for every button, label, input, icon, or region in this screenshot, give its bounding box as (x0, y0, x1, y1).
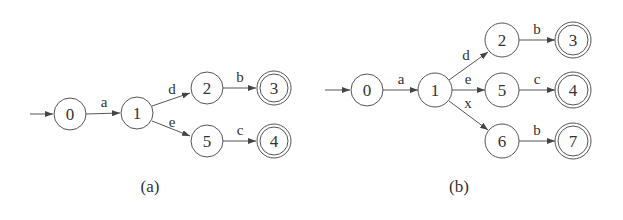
state-0: 0 (351, 74, 383, 106)
svg-text:4: 4 (569, 81, 578, 100)
state-7-accepting: 7 (555, 123, 591, 159)
svg-text:1: 1 (431, 81, 440, 100)
edge-label-c: c (237, 122, 244, 138)
svg-text:6: 6 (498, 132, 507, 151)
edge-label-c: c (534, 71, 541, 87)
edge-label-d: d (462, 47, 470, 63)
edge-label-d: d (168, 81, 176, 97)
edge-label-b: b (533, 122, 541, 138)
svg-text:4: 4 (270, 132, 279, 151)
svg-text:3: 3 (270, 79, 279, 98)
edge-label-a: a (398, 71, 405, 87)
state-3-accepting: 3 (555, 22, 591, 58)
edge-label-e: e (169, 114, 176, 130)
state-6: 6 (485, 124, 519, 158)
automaton-b: a d e x b c b 0 1 2 3 (325, 21, 591, 196)
edge-label-b: b (236, 69, 244, 85)
svg-text:0: 0 (66, 105, 75, 124)
state-5: 5 (485, 73, 519, 107)
state-2: 2 (485, 23, 519, 57)
edge-label-a: a (101, 94, 108, 110)
state-0: 0 (54, 98, 86, 130)
state-2: 2 (191, 72, 223, 104)
svg-text:5: 5 (498, 81, 507, 100)
figure-canvas: a d e b c 0 1 2 3 5 (0, 0, 623, 220)
svg-text:0: 0 (363, 81, 372, 100)
edge-label-e: e (465, 71, 472, 87)
state-1: 1 (121, 97, 153, 129)
svg-text:5: 5 (203, 132, 212, 151)
state-3-accepting: 3 (257, 71, 291, 105)
state-5: 5 (191, 125, 223, 157)
svg-text:3: 3 (569, 31, 578, 50)
state-4-accepting: 4 (555, 72, 591, 108)
svg-text:7: 7 (569, 132, 578, 151)
edge-label-b: b (533, 21, 541, 37)
edge-0-1 (86, 113, 120, 114)
svg-text:2: 2 (498, 31, 507, 50)
caption-b: (b) (449, 177, 469, 196)
svg-text:2: 2 (203, 79, 212, 98)
state-1: 1 (418, 73, 452, 107)
state-4-accepting: 4 (257, 124, 291, 158)
caption-a: (a) (141, 177, 160, 196)
svg-text:1: 1 (133, 104, 142, 123)
edge-label-x: x (464, 95, 472, 111)
automaton-a: a d e b c 0 1 2 3 5 (30, 69, 291, 196)
